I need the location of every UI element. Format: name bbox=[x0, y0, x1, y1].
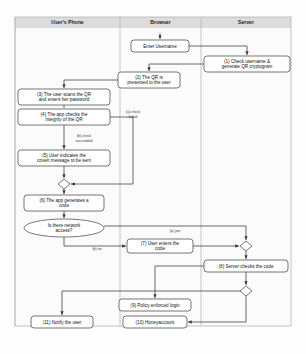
edge-label-yes-label: (a) yes bbox=[170, 229, 181, 233]
lane-body-phone bbox=[15, 28, 120, 326]
node-network-access[interactable]: Is there networkaccess? bbox=[24, 219, 104, 237]
node-label-check-integrity: integrity of the QR bbox=[45, 117, 83, 122]
node-label-policy-login: (9) Policy enforced login bbox=[130, 303, 180, 308]
node-label-honeyaccount: (10) Honeyaccount bbox=[136, 320, 176, 325]
node-label-server-checks: (8) Server checks the code bbox=[219, 264, 274, 269]
node-label-qr-presented: presented to the user bbox=[127, 80, 171, 85]
node-label-enter-code: code bbox=[155, 246, 165, 251]
node-generate-code[interactable]: (6) The app generates acode bbox=[24, 195, 104, 211]
node-label-covert-message: covert message to be sent bbox=[37, 158, 92, 163]
node-check-integrity[interactable]: (4) The app checks theintegrity of the Q… bbox=[18, 109, 110, 125]
node-scan-qr[interactable]: (3) The user scans the QRand enters her … bbox=[18, 89, 110, 105]
node-notify-user[interactable]: (11) Notify the user bbox=[31, 316, 93, 328]
edge-label-check-succeeded: (b) check bbox=[77, 134, 92, 138]
node-label-notify-user: (11) Notify the user bbox=[43, 320, 82, 325]
edge-label-check-failed-2: failed bbox=[129, 115, 137, 119]
edge-label-check-failed: (a) check bbox=[126, 110, 141, 114]
node-honeyaccount[interactable]: (10) Honeyaccount bbox=[123, 316, 187, 328]
node-label-enter-username: Enter Username bbox=[143, 44, 177, 49]
edge-label-check-succeeded-2: succeeded bbox=[76, 139, 93, 143]
node-check-username[interactable]: (1) Check username &generate QR cryptogr… bbox=[204, 56, 290, 72]
lane-label-phone: User's Phone bbox=[51, 19, 84, 25]
node-policy-login[interactable]: (9) Policy enforced login bbox=[119, 299, 191, 311]
node-qr-presented[interactable]: (2) The QR ispresented to the user bbox=[118, 72, 180, 88]
edge-label-no-label: (b) no bbox=[92, 247, 101, 251]
lane-label-server: Server bbox=[238, 19, 254, 25]
node-enter-username[interactable]: Enter Username bbox=[131, 40, 189, 52]
node-label-generate-code: code bbox=[59, 203, 69, 208]
node-label-check-username: generate QR cryptogram bbox=[222, 64, 273, 69]
node-label-scan-qr: and enters her password bbox=[39, 97, 90, 102]
lane-label-browser: Browser bbox=[150, 19, 170, 25]
node-server-checks[interactable]: (8) Server checks the code bbox=[204, 260, 288, 272]
node-enter-code[interactable]: (7) User enters thecode bbox=[127, 239, 193, 253]
node-label-network-access: access? bbox=[56, 228, 73, 233]
flowchart-svg: User's PhoneBrowserServer Enter Username… bbox=[0, 0, 306, 354]
node-covert-message[interactable]: (5) User indicates thecovert message to … bbox=[18, 150, 110, 166]
flowchart-canvas: User's PhoneBrowserServer Enter Username… bbox=[0, 0, 306, 354]
